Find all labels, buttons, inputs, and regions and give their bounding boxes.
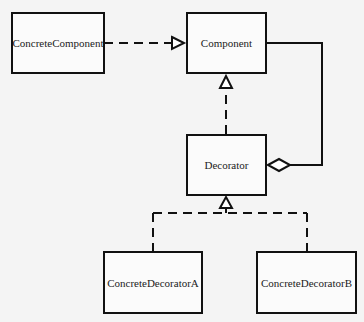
class-label: Decorator xyxy=(205,159,249,171)
hollow-diamond-icon xyxy=(268,159,290,171)
class-decorator: Decorator xyxy=(186,134,267,196)
class-concrete-component: ConcreteComponent xyxy=(11,12,105,74)
hollow-triangle-icon xyxy=(220,197,232,208)
hollow-triangle-icon xyxy=(220,76,232,88)
class-label: ConcreteDecoratorB xyxy=(261,277,352,289)
aggregation-line xyxy=(266,43,322,165)
hollow-triangle-icon xyxy=(172,37,184,49)
class-concrete-decorator-a: ConcreteDecoratorA xyxy=(103,251,203,314)
class-label: ConcreteDecoratorA xyxy=(107,277,199,289)
class-label: ConcreteComponent xyxy=(12,37,103,49)
class-component: Component xyxy=(186,12,267,74)
class-label: Component xyxy=(201,37,252,49)
class-concrete-decorator-b: ConcreteDecoratorB xyxy=(256,251,357,314)
